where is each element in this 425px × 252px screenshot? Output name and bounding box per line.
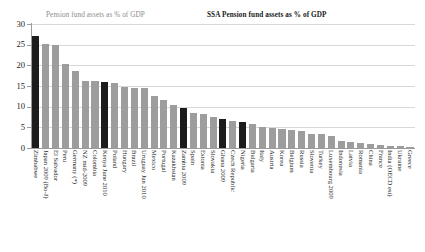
x-axis-category-label: Brazil xyxy=(131,150,138,166)
y-axis-tick-label: 10 xyxy=(0,102,25,111)
x-label-slot: Belgium xyxy=(287,149,297,252)
bar xyxy=(111,83,118,148)
x-axis-category-label: France xyxy=(377,150,384,168)
bar xyxy=(318,134,325,148)
bar-ssa xyxy=(219,119,226,148)
bar-slot xyxy=(51,24,61,148)
x-label-slot: Turkey xyxy=(317,149,327,252)
bar-slot xyxy=(267,24,277,148)
bar xyxy=(131,88,138,148)
y-axis-tick-label: 25 xyxy=(0,40,25,49)
bar-slot xyxy=(110,24,120,148)
y-axis-tick-label: 15 xyxy=(0,82,25,91)
bar-slot xyxy=(208,24,218,148)
x-label-slot: Portugal xyxy=(159,149,169,252)
bar xyxy=(377,145,384,148)
x-axis-category-label: Nigeria xyxy=(239,150,246,170)
bar-slot xyxy=(336,24,346,148)
bar-slot xyxy=(326,24,336,148)
bar-slot xyxy=(307,24,317,148)
bar xyxy=(338,141,345,148)
bar-series-container xyxy=(31,24,415,148)
x-axis-category-label: Latvia xyxy=(348,150,355,167)
pension-fund-assets-bar-chart: Pension fund assets as % of GDP SSA Pens… xyxy=(0,0,425,252)
x-axis-category-label: Romania xyxy=(358,150,365,174)
x-label-slot: Uruguay Jun 2010 xyxy=(139,149,149,252)
bar xyxy=(210,117,217,148)
bar xyxy=(141,88,148,148)
x-label-slot: Czech Republic xyxy=(228,149,238,252)
bar xyxy=(170,105,177,148)
x-label-slot: Indonesia xyxy=(336,149,346,252)
x-axis-category-label: Germany (*) xyxy=(72,150,79,184)
bar xyxy=(308,134,315,148)
y-axis-tick-labels: 051015202530 xyxy=(0,0,31,252)
x-label-slot: Japan 2009 (Bo-J) xyxy=(41,149,51,252)
legend-item-pension-fund-assets: Pension fund assets as % of GDP xyxy=(46,11,145,19)
x-axis-category-label: Italy xyxy=(259,150,266,162)
x-axis-category-label: Slovenia xyxy=(308,150,315,173)
bar-slot xyxy=(346,24,356,148)
x-label-slot: Zimbabwe xyxy=(31,149,41,252)
bar-slot xyxy=(287,24,297,148)
x-label-slot: Italy xyxy=(257,149,267,252)
x-label-slot: Mexico xyxy=(149,149,159,252)
bar xyxy=(151,96,158,148)
bar xyxy=(121,87,128,148)
x-axis-category-label: Bulgaria xyxy=(249,150,256,173)
bar xyxy=(259,127,266,148)
bar-slot xyxy=(179,24,189,148)
x-axis-category-label: Ukraine xyxy=(397,150,404,171)
x-label-slot: Peru xyxy=(61,149,71,252)
bar-slot xyxy=(41,24,51,148)
bar xyxy=(249,124,256,148)
x-label-slot: El Salvador xyxy=(51,149,61,252)
x-label-slot: Latvia xyxy=(346,149,356,252)
x-axis-category-label: Japan 2009 (Bo-J) xyxy=(42,150,49,198)
x-axis-category-label: Russia xyxy=(298,150,305,168)
x-axis-category-label: El Salvador xyxy=(52,150,59,181)
x-label-slot: Spain xyxy=(189,149,199,252)
x-axis-category-label: Kenya June 2010 xyxy=(102,150,109,196)
legend-item-ssa-pension-fund-assets: SSA Pension fund assets as % of GDP xyxy=(207,11,327,19)
bar xyxy=(200,114,207,148)
bar-slot xyxy=(376,24,386,148)
bar-slot xyxy=(100,24,110,148)
x-axis-category-label: Czech Republic xyxy=(230,150,237,192)
x-axis-category-label: Hungary xyxy=(121,150,128,173)
x-axis-category-label: Austria xyxy=(269,150,276,169)
bar-slot xyxy=(159,24,169,148)
x-label-slot: Kazakhstan xyxy=(169,149,179,252)
x-label-slot: Germany (*) xyxy=(70,149,80,252)
x-axis-category-label: Mexico xyxy=(151,150,158,170)
bar-slot xyxy=(149,24,159,148)
x-label-slot: Korea xyxy=(277,149,287,252)
bar xyxy=(278,129,285,148)
x-axis-category-label: Greece xyxy=(407,150,414,169)
x-label-slot: NZ mid-2009 xyxy=(80,149,90,252)
x-label-slot: Romania xyxy=(356,149,366,252)
bar xyxy=(298,131,305,148)
bar-slot xyxy=(297,24,307,148)
x-axis-category-label: Indonesia xyxy=(338,150,345,176)
bar xyxy=(62,64,69,148)
bar xyxy=(269,128,276,148)
x-axis-category-label: Turkey xyxy=(318,150,325,169)
bar xyxy=(52,45,59,148)
x-axis-category-label: Estonia xyxy=(200,150,207,170)
x-axis-category-label: Spain xyxy=(190,150,197,165)
x-axis-category-label: Slovakia xyxy=(210,150,217,173)
x-axis-category-label: Zimbabwe xyxy=(33,150,40,178)
bar-slot xyxy=(139,24,149,148)
bar xyxy=(357,143,364,148)
x-axis-category-label: Portugal xyxy=(161,150,168,172)
x-label-slot: Luxembourg 2009 xyxy=(326,149,336,252)
bar-slot xyxy=(80,24,90,148)
bar-slot xyxy=(198,24,208,148)
bar xyxy=(91,81,98,148)
bar-ssa xyxy=(239,122,246,148)
x-label-slot: Ghana 2009 xyxy=(218,149,228,252)
bar-slot xyxy=(189,24,199,148)
bar-slot xyxy=(218,24,228,148)
x-label-slot: Austria xyxy=(267,149,277,252)
